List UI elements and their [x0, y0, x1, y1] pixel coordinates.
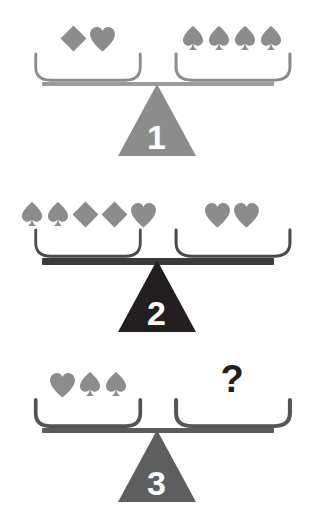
right-pan	[172, 228, 294, 260]
left-pan	[32, 228, 144, 260]
spade-symbol	[259, 25, 283, 52]
balance-scale-3: ?3	[0, 352, 313, 522]
right-pan-items: ?	[174, 352, 290, 398]
diamond-symbol	[72, 201, 99, 228]
spade-symbol	[207, 25, 231, 52]
spade-symbol	[78, 371, 102, 398]
left-pan-items	[36, 6, 140, 52]
question-mark: ?	[220, 360, 243, 398]
balance-scale-1: 1	[0, 6, 313, 176]
spade-symbol	[181, 25, 205, 52]
diamond-symbol	[101, 201, 128, 228]
left-pan-items	[36, 352, 140, 398]
heart-symbol	[49, 372, 76, 398]
right-pan-items	[174, 182, 290, 228]
diamond-symbol	[60, 25, 87, 52]
left-pan	[32, 52, 144, 84]
heart-symbol	[130, 202, 157, 228]
heart-symbol	[233, 202, 260, 228]
right-pan	[172, 52, 294, 84]
fulcrum-1: 1	[118, 84, 196, 156]
spade-symbol	[20, 201, 44, 228]
spade-symbol	[46, 201, 70, 228]
heart-symbol	[204, 202, 231, 228]
spade-symbol	[233, 25, 257, 52]
balance-scale-2: 2	[0, 182, 313, 352]
balance-puzzle: 12?3	[0, 0, 313, 526]
heart-symbol	[89, 26, 116, 52]
right-pan-items	[174, 6, 290, 52]
right-pan	[172, 398, 294, 430]
spade-symbol	[104, 371, 128, 398]
fulcrum-3: 3	[118, 430, 196, 502]
fulcrum-2: 2	[118, 260, 196, 332]
left-pan-items	[36, 182, 140, 228]
left-pan	[32, 398, 144, 430]
